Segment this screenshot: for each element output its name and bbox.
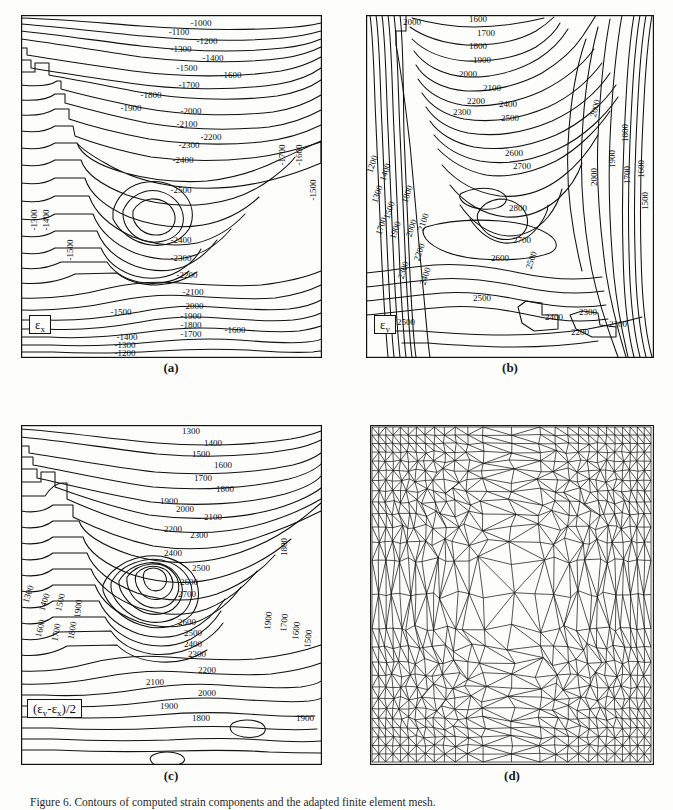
panel-c-quantity-label: (εy-εx)/2 bbox=[33, 702, 76, 715]
svg-text:-1300: -1300 bbox=[171, 44, 192, 54]
svg-text:1900: 1900 bbox=[72, 599, 84, 618]
svg-text:-2400: -2400 bbox=[173, 155, 194, 165]
svg-text:2400: 2400 bbox=[545, 312, 564, 322]
svg-text:2800: 2800 bbox=[509, 203, 528, 213]
svg-text:2400: 2400 bbox=[184, 639, 203, 649]
svg-text:2500: 2500 bbox=[192, 563, 211, 573]
svg-text:-1500: -1500 bbox=[111, 307, 132, 317]
panel-a-contour-epsilon-x: -1000 -1100 -1200 -1300 -1400 -1500 -160… bbox=[21, 15, 322, 358]
svg-text:1900: 1900 bbox=[473, 55, 492, 65]
svg-text:-2400: -2400 bbox=[171, 235, 192, 245]
svg-text:1600: 1600 bbox=[214, 460, 233, 470]
panel-a-svg: -1000 -1100 -1200 -1300 -1400 -1500 -160… bbox=[21, 15, 322, 358]
svg-text:2500: 2500 bbox=[397, 317, 416, 327]
panel-d-adapted-mesh bbox=[370, 425, 654, 765]
svg-text:1600: 1600 bbox=[290, 621, 302, 640]
svg-text:-1800: -1800 bbox=[141, 90, 162, 100]
svg-text:-1100: -1100 bbox=[121, 355, 142, 358]
svg-text:2000: 2000 bbox=[176, 504, 195, 514]
svg-text:-2300: -2300 bbox=[171, 253, 192, 263]
panel-d-svg bbox=[370, 425, 654, 765]
svg-text:2200: 2200 bbox=[467, 96, 486, 106]
svg-text:2000: 2000 bbox=[459, 69, 478, 79]
svg-text:1900: 1900 bbox=[296, 713, 315, 723]
svg-text:2700: 2700 bbox=[513, 235, 532, 245]
panel-c-caption-label: (c) bbox=[141, 768, 201, 784]
svg-text:-2100: -2100 bbox=[177, 119, 198, 129]
svg-text:2400: 2400 bbox=[499, 99, 518, 109]
svg-text:2700: 2700 bbox=[513, 161, 532, 171]
svg-text:2700: 2700 bbox=[178, 589, 197, 599]
svg-text:1800: 1800 bbox=[620, 124, 630, 143]
svg-text:-1600: -1600 bbox=[294, 144, 304, 165]
svg-text:-1900: -1900 bbox=[121, 103, 142, 113]
svg-text:1500: 1500 bbox=[302, 629, 314, 648]
svg-text:-1500: -1500 bbox=[65, 239, 75, 260]
svg-text:2500: 2500 bbox=[473, 293, 492, 303]
svg-text:1800: 1800 bbox=[192, 713, 211, 723]
svg-text:1300: 1300 bbox=[182, 426, 201, 436]
figure-caption-number: Figure 6. bbox=[30, 796, 72, 808]
panel-b-contour-epsilon-y: 1600 1700 1800 1900 2000 2100 2200 2400 … bbox=[366, 15, 654, 358]
svg-text:1600: 1600 bbox=[636, 160, 646, 179]
svg-text:2000: 2000 bbox=[198, 688, 217, 698]
svg-text:-1400: -1400 bbox=[203, 53, 224, 63]
svg-text:2300: 2300 bbox=[453, 107, 472, 117]
svg-text:1800: 1800 bbox=[469, 41, 488, 51]
panel-a-quantity-label: εx bbox=[35, 318, 45, 331]
svg-text:1500: 1500 bbox=[192, 449, 211, 459]
panel-d-caption-label: (d) bbox=[482, 768, 542, 784]
svg-text:2300: 2300 bbox=[579, 307, 598, 317]
svg-text:-1700: -1700 bbox=[181, 329, 202, 339]
svg-text:-2300: -2300 bbox=[179, 140, 200, 150]
svg-text:2100: 2100 bbox=[204, 512, 223, 522]
svg-text:-1200: -1200 bbox=[197, 36, 218, 46]
panel-b-svg: 1600 1700 1800 1900 2000 2100 2200 2400 … bbox=[366, 15, 654, 358]
figure-caption-text: Contours of computed strain components a… bbox=[74, 796, 435, 808]
svg-text:2200: 2200 bbox=[198, 665, 217, 675]
svg-text:-1000: -1000 bbox=[191, 18, 212, 28]
svg-text:1600: 1600 bbox=[469, 15, 488, 24]
figure-root: -1000 -1100 -1200 -1300 -1400 -1500 -160… bbox=[0, 0, 673, 810]
svg-text:2100: 2100 bbox=[483, 83, 502, 93]
svg-text:1900: 1900 bbox=[160, 701, 179, 711]
svg-text:-2200: -2200 bbox=[201, 132, 222, 142]
panel-b-quantity-label: εy bbox=[380, 318, 390, 331]
svg-text:-2000: -2000 bbox=[183, 301, 204, 311]
panel-b-caption-label: (b) bbox=[480, 360, 540, 376]
svg-text:2600: 2600 bbox=[505, 148, 524, 158]
svg-text:2600: 2600 bbox=[180, 577, 199, 587]
svg-text:1700: 1700 bbox=[278, 613, 290, 632]
svg-text:2100: 2100 bbox=[146, 677, 165, 687]
svg-text:2300: 2300 bbox=[188, 649, 207, 659]
svg-text:-2500: -2500 bbox=[171, 185, 192, 195]
svg-text:-1500: -1500 bbox=[177, 63, 198, 73]
svg-text:2300: 2300 bbox=[190, 530, 209, 540]
svg-text:-1300: -1300 bbox=[29, 209, 39, 230]
svg-text:-1500: -1500 bbox=[308, 179, 318, 200]
svg-text:2000: 2000 bbox=[589, 168, 599, 187]
svg-text:1700: 1700 bbox=[622, 166, 632, 185]
panel-c-contour-shear: 1300 1400 1500 1600 1700 1800 1900 2000 … bbox=[21, 425, 322, 765]
svg-text:-1600: -1600 bbox=[225, 325, 246, 335]
svg-text:2600: 2600 bbox=[178, 617, 197, 627]
svg-text:2500: 2500 bbox=[184, 628, 203, 638]
svg-text:-1600: -1600 bbox=[221, 70, 242, 80]
svg-text:2100: 2100 bbox=[609, 319, 628, 329]
svg-text:2600: 2600 bbox=[491, 253, 510, 263]
svg-text:1800: 1800 bbox=[279, 538, 289, 557]
svg-text:2200: 2200 bbox=[571, 327, 590, 337]
svg-text:-2000: -2000 bbox=[181, 106, 202, 116]
svg-text:1500: 1500 bbox=[640, 192, 650, 211]
svg-text:1800: 1800 bbox=[216, 484, 235, 494]
svg-text:-1700: -1700 bbox=[277, 144, 287, 165]
svg-text:-1700: -1700 bbox=[179, 80, 200, 90]
svg-text:2200: 2200 bbox=[164, 524, 183, 534]
svg-text:-1400: -1400 bbox=[41, 209, 51, 230]
svg-text:1900: 1900 bbox=[262, 611, 274, 630]
svg-text:-2200: -2200 bbox=[177, 270, 198, 280]
svg-text:-2100: -2100 bbox=[183, 287, 204, 297]
svg-text:1700: 1700 bbox=[194, 473, 213, 483]
panel-b-quantity-box: εy bbox=[374, 315, 396, 334]
panel-c-quantity-box: (εy-εx)/2 bbox=[27, 699, 82, 718]
